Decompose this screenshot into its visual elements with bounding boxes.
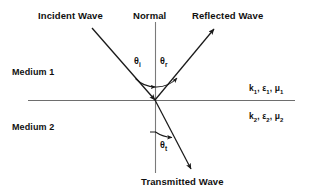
medium-2-label: Medium 2 [12,123,54,132]
theta-t-arc [156,132,173,138]
theta-r-subscript: r [165,61,168,68]
theta-t-label: θt [160,141,167,152]
incident-wave-label: Incident Wave [38,11,103,21]
transmitted-wave-label: Transmitted Wave [141,177,224,187]
theta-i-arc [136,79,156,88]
medium-1-label: Medium 1 [12,68,54,77]
normal-label: Normal [133,11,166,21]
medium-2-parameters: k2, ε2, μ2 [249,112,283,123]
theta-i-subscript: i [139,61,141,68]
physics-diagram-reflection-refraction: Incident Wave Normal Reflected Wave Tran… [0,0,318,195]
theta-r-arc [156,78,178,87]
medium-1-parameters: k1, ε1, μ1 [249,84,283,95]
reflected-wave-label: Reflected Wave [192,11,263,21]
theta-r-label: θr [160,57,167,68]
mu2-subscript: 2 [280,117,283,123]
theta-t-subscript: t [165,145,167,152]
diagram-canvas [0,0,318,195]
mu1-subscript: 1 [280,89,283,95]
incident-ray-arrow [92,28,155,100]
theta-i-label: θi [134,57,141,68]
